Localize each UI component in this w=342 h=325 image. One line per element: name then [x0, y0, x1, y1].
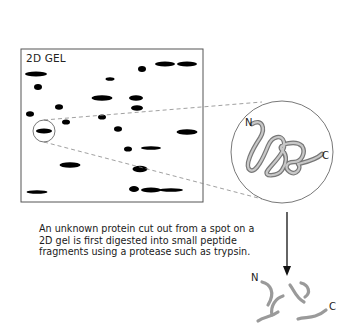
gel-spot: [155, 61, 175, 66]
gel-spot: [26, 111, 34, 117]
gel-spot: [92, 95, 113, 101]
gel-label: 2D GEL: [26, 52, 66, 64]
gel-frame: [21, 49, 203, 202]
gel-spot: [177, 61, 197, 66]
gel-spot: [177, 129, 198, 135]
gel-spot: [27, 190, 48, 194]
n-terminus-label: N: [245, 117, 252, 128]
gel-spot: [25, 71, 47, 76]
arrow-head-icon: [283, 266, 291, 276]
gel-spot: [36, 128, 52, 133]
gel-spot: [60, 162, 81, 168]
peptide-fragments: [258, 282, 326, 321]
caption: An unknown protein cut out from a spot o…: [39, 223, 269, 258]
gel-spot: [141, 187, 161, 192]
gel-spot: [159, 188, 183, 192]
c-terminus-label: C: [322, 150, 329, 161]
gel-spot: [62, 119, 70, 124]
gel-spot: [129, 186, 139, 192]
gel-spot: [34, 84, 42, 90]
gel-spot: [138, 66, 146, 72]
fragment-c-label: C: [329, 301, 336, 312]
diagram-canvas: [0, 0, 342, 325]
caption-line: An unknown protein cut out from a spot o…: [39, 223, 269, 235]
caption-line: 2D gel is first digested into small pept…: [39, 235, 269, 247]
gel-spot: [106, 77, 115, 81]
gel-spot: [131, 105, 143, 111]
gel-spot: [114, 126, 122, 132]
gel-spot: [55, 104, 63, 110]
gel-spot: [124, 146, 132, 151]
caption-line: fragments using a protease such as tryps…: [39, 246, 269, 258]
gel-spot: [129, 95, 143, 101]
fragment-n-label: N: [251, 272, 258, 283]
gel-spot: [141, 146, 161, 150]
